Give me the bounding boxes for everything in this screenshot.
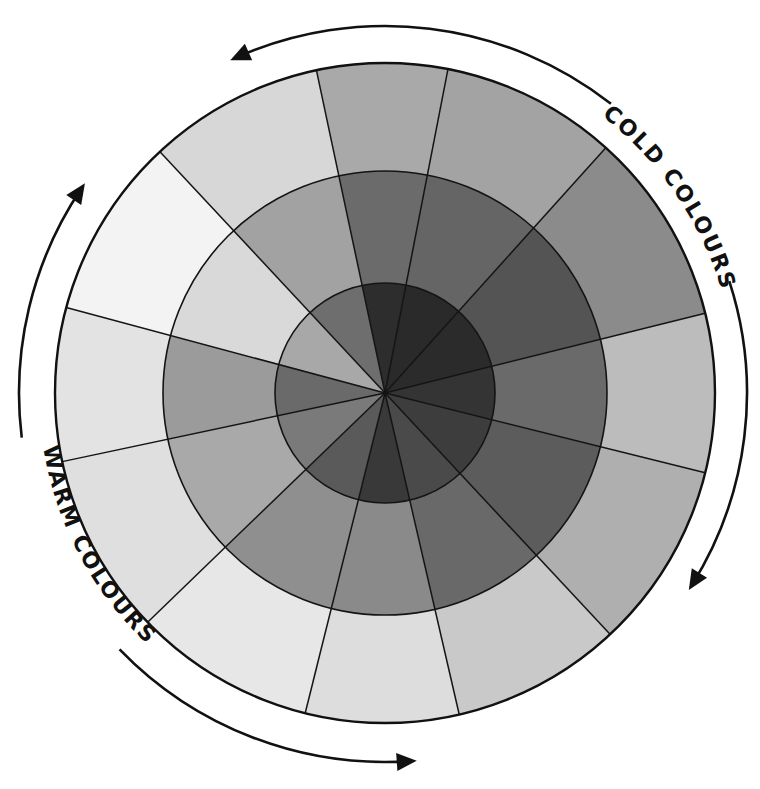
segment-1-outer: [316, 63, 448, 176]
bottom-arrowhead-icon: [396, 753, 417, 771]
segment-7-outer: [305, 608, 459, 723]
colour-wheel-diagram: COLD COLOURS WARM COLOURS: [0, 0, 760, 789]
left-arrowhead-icon: [66, 183, 85, 205]
right-arrowhead-icon: [689, 568, 707, 590]
segment-4-outer: [600, 313, 715, 473]
